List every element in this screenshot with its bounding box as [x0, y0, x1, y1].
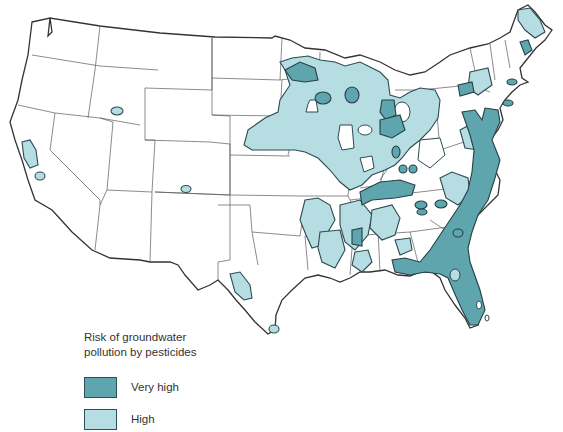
legend-label-very-high: Very high: [131, 381, 179, 393]
legend-item-high: High: [84, 408, 284, 430]
legend: Risk of groundwater pollution by pestici…: [84, 330, 284, 430]
very-high-swatch: [84, 377, 117, 398]
legend-item-very-high: Very high: [84, 376, 284, 398]
high-swatch: [84, 409, 117, 430]
legend-title-line1: Risk of groundwater: [84, 330, 284, 345]
florida-gaps: [450, 269, 460, 281]
legend-title-line2: pollution by pesticides: [84, 345, 284, 360]
legend-label-high: High: [131, 413, 155, 425]
